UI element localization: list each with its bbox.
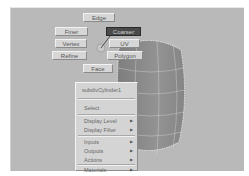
menu-divider <box>78 135 135 137</box>
context-menu: subdivCylinder1 Select Display Level▶ Di… <box>75 82 138 171</box>
submenu-arrow-icon: ▶ <box>130 166 133 174</box>
menu-item-display-filter[interactable]: Display Filter▶ <box>84 126 134 134</box>
menu-item-inputs[interactable]: Inputs▶ <box>84 138 134 146</box>
3d-viewport[interactable]: Edge Finer Coarser Vertex UV Refine Poly… <box>10 7 244 171</box>
marking-menu-northwest[interactable]: Finer <box>55 27 88 36</box>
menu-item-select[interactable]: Select <box>84 104 134 112</box>
submenu-arrow-icon: ▶ <box>130 117 133 125</box>
menu-item-display-level[interactable]: Display Level▶ <box>84 117 134 125</box>
marking-menu-north[interactable]: Edge <box>83 13 115 22</box>
marking-menu-west[interactable]: Vertex <box>55 39 87 48</box>
submenu-arrow-icon: ▶ <box>130 126 133 134</box>
marking-menu-center-icon <box>91 34 113 60</box>
marking-menu-south[interactable]: Face <box>83 64 113 73</box>
submenu-arrow-icon: ▶ <box>130 147 133 155</box>
menu-item-materials[interactable]: Materials▶ <box>84 166 134 174</box>
marking-menu-east[interactable]: UV <box>109 39 140 48</box>
submenu-arrow-icon: ▶ <box>130 138 133 146</box>
marking-menu-southwest[interactable]: Refine <box>52 51 87 60</box>
menu-item-outputs[interactable]: Outputs▶ <box>84 147 134 155</box>
submenu-arrow-icon: ▶ <box>130 156 133 164</box>
context-menu-title: subdivCylinder1 <box>82 86 134 94</box>
menu-item-actions[interactable]: Actions▶ <box>84 156 134 164</box>
menu-divider <box>78 114 135 116</box>
menu-divider <box>78 98 135 100</box>
